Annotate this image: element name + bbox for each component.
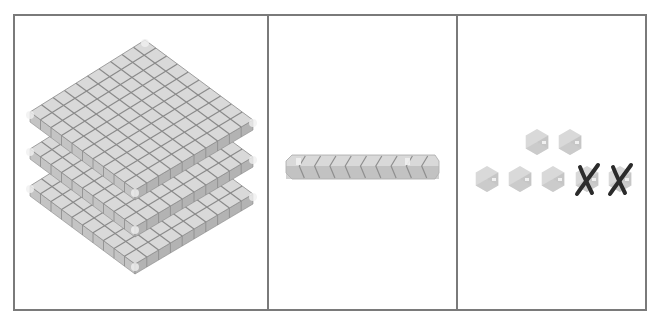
hundreds-panel: Hundreds [15,16,267,309]
ones-panel: Ones [458,16,645,309]
hundred-flats-icon [15,16,267,309]
tens-panel: Tens [269,16,456,309]
unit-cube [559,129,582,155]
ten-rod-icon [269,16,456,309]
ten-rod [286,155,439,179]
unit-cube [476,166,499,192]
unit-cubes-icon [458,16,645,309]
unit-cube [509,166,532,192]
unit-cube [526,129,549,155]
unit-cube [542,166,565,192]
